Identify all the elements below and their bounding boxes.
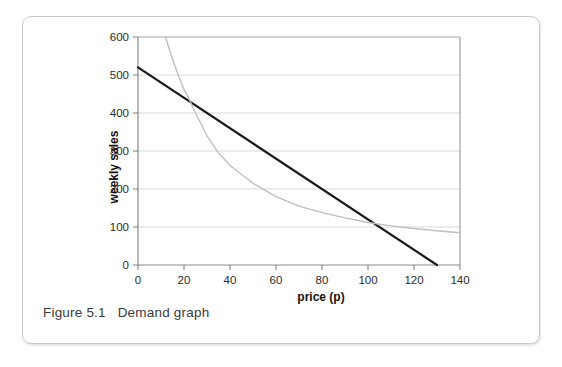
y-tick-label: 100 [110,221,129,233]
x-tick-label: 100 [358,274,377,286]
y-tick-label: 500 [110,69,129,81]
x-tick-label: 140 [450,274,469,286]
x-tick-label: 120 [404,274,423,286]
x-tick-label: 80 [316,274,329,286]
x-tick-label: 0 [135,274,141,286]
chart-plot-area: 0100200300400500600020406080100120140 pr… [23,17,541,307]
x-axis-title: price (p) [297,290,344,304]
gridlines [138,37,460,227]
series-revenue-curve [166,37,460,233]
demand-graph-svg: 0100200300400500600020406080100120140 pr… [23,17,541,307]
series-demand-line [138,67,437,265]
axis-tick-labels: 0100200300400500600020406080100120140 [110,31,470,286]
y-tick-label: 0 [123,259,129,271]
y-axis-title: weekly sales [107,130,121,204]
axis-tick-marks [133,37,460,270]
figure-caption: Figure 5.1 Demand graph [43,305,209,320]
y-tick-label: 400 [110,107,129,119]
figure-frame: 0100200300400500600020406080100120140 pr… [22,16,540,344]
x-tick-label: 40 [224,274,237,286]
x-tick-label: 20 [178,274,191,286]
x-tick-label: 60 [270,274,283,286]
y-tick-label: 600 [110,31,129,43]
